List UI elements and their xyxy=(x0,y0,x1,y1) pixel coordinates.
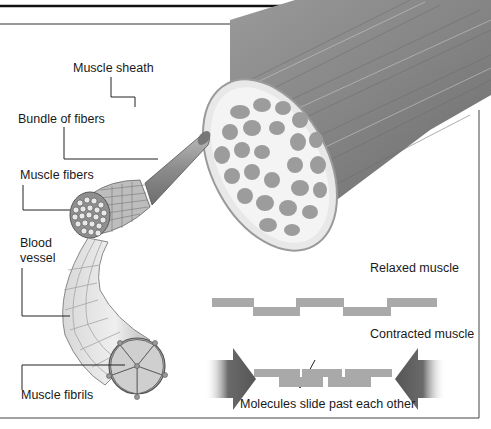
label-muscle-fibrils: Muscle fibrils xyxy=(21,388,93,402)
label-blood-vessel-line1: Blood xyxy=(20,236,52,250)
label-muscle-fibers: Muscle fibers xyxy=(20,168,94,182)
muscle-fibril-strand xyxy=(63,238,168,400)
relaxed-filaments xyxy=(212,298,437,316)
label-blood-vessel-line2: vessel xyxy=(20,251,55,265)
label-molecules-slide: Molecules slide past each other xyxy=(240,397,415,411)
label-relaxed-muscle: Relaxed muscle xyxy=(370,261,459,275)
label-muscle-sheath: Muscle sheath xyxy=(73,61,154,75)
contracted-filaments xyxy=(254,369,392,387)
label-bundle-of-fibers: Bundle of fibers xyxy=(18,112,105,126)
fiber-bundle xyxy=(138,129,213,207)
label-contracted-muscle: Contracted muscle xyxy=(370,327,474,341)
muscle-fibers xyxy=(70,180,150,238)
muscle-diagram: Muscle sheath Bundle of fibers Muscle fi… xyxy=(0,0,491,429)
